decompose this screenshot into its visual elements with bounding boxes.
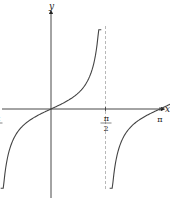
tick-numerator: π	[104, 114, 109, 123]
y-axis-label: y	[48, 1, 55, 11]
x-tick-labels: π2−π2π3π2	[0, 107, 170, 133]
tick-label: π	[157, 115, 162, 124]
tangent-chart: x y π2−π2π3π2	[0, 0, 170, 209]
asymptote-lines	[0, 26, 170, 191]
tick-denominator: 2	[103, 124, 108, 133]
